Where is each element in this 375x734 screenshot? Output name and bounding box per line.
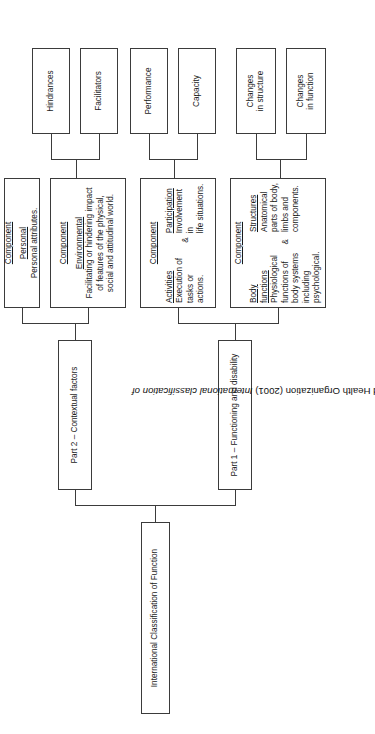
connector-part1-out [235,324,236,340]
connector-activities-to-performance [149,134,150,160]
connector-to-part2 [75,490,76,506]
connector-body-out [280,160,281,178]
connector-part1-spine [178,323,278,324]
connector-part2-out [75,324,76,340]
structures-title: Structures [249,183,260,232]
node-root-label: International Classification of Function [150,549,161,687]
component-heading: Component [4,222,15,264]
personal-body: Personal attributes. [30,208,41,279]
connector-activities-out [174,160,175,178]
environmental-body: Facilitating or hindering impactof featu… [85,187,117,298]
ampersand-activities: & [181,235,192,244]
connector-environmental-to-hindrances [51,134,52,160]
node-changes-in-structure: Changesin structure [236,48,276,134]
structures-body: Anatomicalparts of body,limbs andcompone… [260,183,302,232]
figure-caption-main: International Classification of Function… [253,386,375,397]
component-heading: Component [234,183,245,303]
connector-activities-to-capacity [197,134,198,160]
body-functions-body: Physiologicalfunctions ofbody systemsinc… [270,252,323,303]
connector-part2-to-personal [22,308,23,324]
environmental-title: Environmental [75,217,86,269]
leaf-label: Changesin structure [246,71,267,112]
connector-root-out [155,506,156,522]
connector-part2-to-environmental [88,308,89,324]
ampersand-body: & [281,237,292,246]
connector-environmental-out [76,160,77,178]
personal-title: Personal [19,227,30,259]
body-functions-title: Bodyfunctions [249,252,270,303]
figure-caption-italic: International classification of [132,386,253,397]
node-component-body: Component Bodyfunctions Physiologicalfun… [230,178,326,308]
connector-root-spine [75,505,236,506]
activities-group: Activities Execution oftasks or actions. [165,247,207,303]
activities-title: Activities [165,247,176,303]
node-component-personal: Component Personal Personal attributes. [4,178,40,308]
connector-environmental-spine [51,159,99,160]
participation-group: Participation Involvement inlife situati… [165,183,207,233]
leaf-label: Hindrances [46,70,57,111]
connector-part1-to-activities [178,308,179,324]
node-root: International Classification of Function [141,522,170,714]
leaf-label: Performance [144,68,155,115]
icf-tree-diagram: International Classification of Function… [0,0,330,734]
figure-caption: Figure 1.1International Classification o… [6,369,375,398]
connector-body-spine [256,159,306,160]
node-part-1: Part 1 – Functioning and disability [218,340,252,490]
node-part-2: Part 2 – Contextual factors [58,340,92,490]
node-capacity: Capacity [178,48,216,134]
component-heading: Component [149,183,160,303]
node-component-environmental: Component Environmental Facilitating or … [50,178,126,308]
connector-body-to-changes-structure [256,134,257,160]
node-facilitators: Facilitators [80,48,118,134]
connector-part1-to-body [278,308,279,324]
connector-part2-spine [22,323,88,324]
leaf-label: Capacity [192,75,203,107]
structures-group: Structures Anatomicalparts of body,limbs… [249,183,302,232]
connector-activities-spine [149,159,197,160]
figure-canvas: International Classification of Function… [0,0,375,734]
connector-body-to-changes-function [306,134,307,160]
connector-to-part1 [235,490,236,506]
node-hindrances: Hindrances [32,48,70,134]
node-performance: Performance [130,48,168,134]
participation-title: Participation [165,183,176,233]
node-component-activities: Component Activities Execution oftasks o… [140,178,216,308]
figure-caption-line2: functioning, disability and health. Gene… [6,369,375,383]
node-changes-in-function: Changesin function [286,48,326,134]
leaf-label: Changesin function [296,72,317,109]
body-functions-group: Bodyfunctions Physiologicalfunctions ofb… [249,252,323,303]
activities-body: Execution oftasks or actions. [175,247,207,303]
connector-environmental-to-facilitators [99,134,100,160]
leaf-label: Facilitators [94,71,105,111]
component-heading: Component [59,222,70,264]
participation-body: Involvement inlife situations. [175,183,207,233]
